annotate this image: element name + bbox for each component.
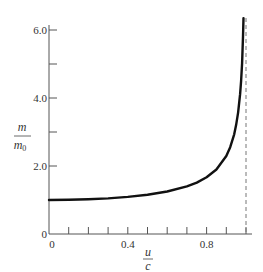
x-label-denominator: c (145, 259, 151, 272)
y-axis-label: m m0 (14, 120, 31, 153)
x-label-numerator: u (145, 245, 151, 259)
y-tick-label: 4.0 (33, 92, 47, 104)
chart-canvas: 02.04.06.0 00.40.8 m m0 u c (0, 0, 263, 272)
mass-ratio-curve (49, 18, 244, 200)
y-tick-label: 6.0 (33, 24, 47, 36)
y-label-denominator: m0 (14, 138, 27, 153)
y-tick-labels: 02.04.06.0 (33, 24, 47, 240)
x-axis-label: u c (143, 245, 153, 272)
x-tick-label: 0.4 (121, 238, 135, 250)
x-tick-label: 0.8 (200, 238, 214, 250)
x-tick-labels: 00.40.8 (49, 238, 214, 250)
x-tick-label: 0 (49, 238, 55, 250)
y-tick-label: 2.0 (33, 160, 47, 172)
y-label-numerator: m (18, 120, 27, 134)
x-ticks (69, 227, 246, 234)
y-tick-label: 0 (42, 228, 48, 240)
y-ticks (49, 30, 57, 166)
